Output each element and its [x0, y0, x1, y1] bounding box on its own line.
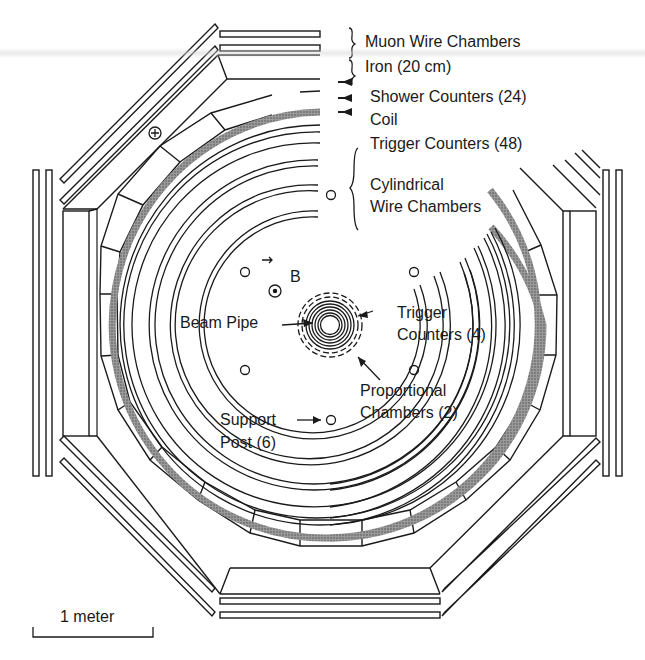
scan-artifact: [0, 48, 645, 58]
scale-bar: [33, 627, 153, 637]
label-b-field: B: [290, 268, 301, 286]
label-cylindrical: Cylindrical: [370, 176, 444, 194]
label-muon-wire-chambers: Muon Wire Chambers: [365, 33, 521, 51]
iron-left: [63, 211, 89, 436]
muon-chambers-top-right: [520, 150, 600, 211]
label-proportional-chambers: Chambers (2): [360, 404, 458, 422]
coil: [112, 112, 543, 538]
b-field-out-icon: [262, 257, 281, 297]
arrowheads: [303, 78, 368, 424]
label-iron: Iron (20 cm): [365, 58, 451, 76]
label-trigger-counters-4-line2: Counters (4): [397, 326, 486, 344]
iron-top-left: [63, 79, 227, 209]
label-proportional: Proportional: [360, 382, 446, 400]
brace-marks: [349, 28, 358, 230]
muon-chambers-right: [603, 170, 622, 476]
label-scale: 1 meter: [60, 608, 114, 626]
label-support: Support: [220, 411, 276, 429]
detector-diagram: Muon Wire Chambers Iron (20 cm) Shower C…: [0, 0, 645, 660]
label-coil: Coil: [370, 111, 398, 129]
label-support-post: Post (6): [220, 434, 276, 452]
label-trigger-counters-4-line1: Trigger: [397, 304, 447, 322]
label-beam-pipe: Beam Pipe: [180, 314, 258, 332]
label-shower-counters: Shower Counters (24): [370, 88, 527, 106]
label-trigger-counters-48: Trigger Counters (48): [370, 135, 522, 153]
muon-chambers-bottom: [220, 598, 440, 618]
shower-counters: [98, 91, 562, 557]
muon-chambers-left: [33, 170, 52, 476]
iron-bottom: [220, 568, 440, 594]
muon-chambers-bottom-right: [430, 436, 600, 616]
iron-top: [218, 55, 320, 79]
detector-svg: [0, 0, 645, 660]
b-field-in-icon: [149, 127, 161, 139]
iron-right: [570, 211, 596, 436]
label-wire-chambers: Wire Chambers: [370, 198, 481, 216]
